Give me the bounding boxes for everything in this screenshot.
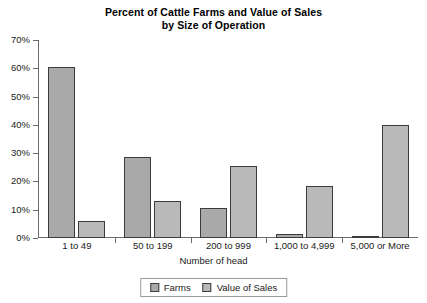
bar-group (266, 40, 342, 238)
y-axis-tick-label: 40% (11, 120, 30, 130)
chart-title: Percent of Cattle Farms and Value of Sal… (0, 6, 427, 32)
y-axis-tick-mark (33, 153, 38, 154)
bar-farms (48, 67, 75, 238)
bar-farms (276, 234, 303, 238)
plot-area: 0%10%20%30%40%50%60%70% (38, 40, 418, 238)
legend-item-farms: Farms (150, 282, 191, 293)
bar-value-of-sales (154, 201, 181, 238)
y-axis-tick-label: 20% (11, 177, 30, 187)
legend-item-value-of-sales: Value of Sales (203, 282, 278, 293)
x-axis-title: Number of head (0, 255, 427, 266)
y-axis-tick-mark (33, 181, 38, 182)
y-axis-tick-label: 10% (11, 205, 30, 215)
chart-title-line-1: Percent of Cattle Farms and Value of Sal… (105, 6, 322, 18)
legend-swatch-value-of-sales (203, 283, 212, 292)
legend-label-value-of-sales: Value of Sales (217, 282, 278, 293)
bar-chart: Percent of Cattle Farms and Value of Sal… (0, 0, 427, 303)
y-axis-tick-mark (33, 68, 38, 69)
bar-group (39, 40, 115, 238)
chart-legend: Farms Value of Sales (140, 278, 287, 297)
x-axis-category-labels: 1 to 4950 to 199200 to 9991,000 to 4,999… (39, 240, 418, 251)
bar-value-of-sales (230, 166, 257, 238)
bar-value-of-sales (306, 186, 333, 238)
legend-label-farms: Farms (164, 282, 191, 293)
x-axis-category-label: 5,000 or More (342, 240, 418, 251)
bar-group (191, 40, 267, 238)
x-axis-category-label: 200 to 999 (191, 240, 267, 251)
y-axis-tick-mark (33, 210, 38, 211)
bar-value-of-sales (78, 221, 105, 238)
y-axis-tick-label: 0% (16, 233, 30, 243)
x-axis-category-label: 1,000 to 4,999 (266, 240, 342, 251)
bar-group (115, 40, 191, 238)
y-axis-tick-mark (33, 97, 38, 98)
bar-value-of-sales (382, 125, 409, 238)
y-axis-tick-label: 70% (11, 35, 30, 45)
bar-farms (352, 236, 379, 238)
chart-title-line-2: by Size of Operation (0, 19, 427, 32)
bar-group (342, 40, 418, 238)
legend-swatch-farms (150, 283, 159, 292)
x-axis-category-label: 1 to 49 (39, 240, 115, 251)
y-axis-tick-label: 50% (11, 92, 30, 102)
y-axis-tick-label: 60% (11, 64, 30, 74)
bar-groups (39, 40, 418, 238)
x-axis-category-label: 50 to 199 (115, 240, 191, 251)
y-axis-tick-label: 30% (11, 148, 30, 158)
bar-farms (124, 157, 151, 238)
y-axis-tick-mark (33, 238, 38, 239)
y-axis-tick-mark (33, 40, 38, 41)
y-axis-tick-mark (33, 125, 38, 126)
bar-farms (200, 208, 227, 238)
